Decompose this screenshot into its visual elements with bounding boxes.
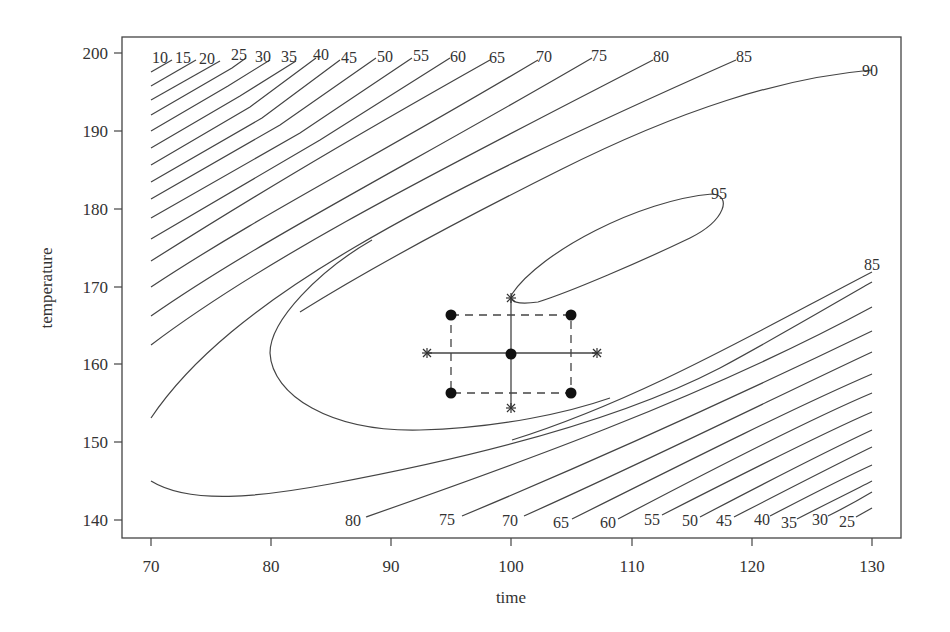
contour-label: 15 <box>175 49 191 66</box>
contour-75-lower <box>462 331 872 516</box>
axial-point-star <box>506 293 516 303</box>
x-tick-label: 70 <box>143 557 160 576</box>
contour-labels-bottom: 80 75 70 65 60 55 50 45 40 35 30 25 <box>345 511 855 531</box>
contour-55 <box>151 58 412 218</box>
contour-label: 70 <box>502 512 518 529</box>
contour-label: 50 <box>682 512 698 529</box>
x-tick-label: 110 <box>620 557 645 576</box>
contour-80 <box>151 60 653 345</box>
contour-label: 55 <box>413 47 429 64</box>
y-axis: 200 190 180 170 160 150 140 temperature <box>37 44 122 530</box>
y-tick-label: 150 <box>83 433 109 452</box>
y-tick-label: 190 <box>83 122 109 141</box>
y-tick-label: 200 <box>83 44 109 63</box>
central-composite-design <box>422 293 602 413</box>
contour-label: 45 <box>716 512 732 529</box>
contour-45-lower <box>734 447 872 517</box>
contour-40 <box>151 58 316 165</box>
contour-label: 65 <box>489 49 505 66</box>
contour-label: 30 <box>255 48 271 65</box>
factorial-point <box>446 388 457 399</box>
contour-label: 55 <box>644 511 660 528</box>
contour-label: 35 <box>281 48 297 65</box>
x-tick-label: 130 <box>859 557 885 576</box>
axial-point-star <box>422 348 432 358</box>
y-axis-title: temperature <box>37 247 56 328</box>
y-tick-label: 160 <box>83 355 109 374</box>
contour-lines-upper <box>151 58 736 418</box>
contour-label: 75 <box>591 47 607 64</box>
contour-label: 70 <box>536 48 552 65</box>
contour-label: 50 <box>377 48 393 65</box>
x-tick-label: 90 <box>383 557 400 576</box>
x-tick-label: 120 <box>739 557 765 576</box>
contour-label: 10 <box>152 49 168 66</box>
axial-point-star <box>592 348 602 358</box>
contour-label: 25 <box>839 513 855 530</box>
x-tick-label: 80 <box>263 557 280 576</box>
contour-label: 30 <box>812 511 828 528</box>
contour-label: 40 <box>313 46 329 63</box>
plot-frame <box>122 37 901 538</box>
contour-label: 60 <box>450 48 466 65</box>
contour-lines-lower <box>366 272 872 519</box>
axial-point-star <box>506 403 516 413</box>
contour-25-lower <box>856 508 872 517</box>
contour-label: 75 <box>439 511 455 528</box>
center-point <box>506 349 517 360</box>
contour-label: 20 <box>199 50 215 67</box>
contour-label: 80 <box>653 48 669 65</box>
y-tick-label: 180 <box>83 200 109 219</box>
contour-label: 35 <box>781 514 797 531</box>
x-axis: 70 80 90 100 110 120 130 time <box>143 538 885 607</box>
contour-label: 80 <box>345 512 361 529</box>
contour-95 <box>511 194 723 303</box>
contour-label-85-right: 85 <box>864 256 880 273</box>
contour-70-lower <box>524 352 872 516</box>
contour-plot: 200 190 180 170 160 150 140 temperature … <box>0 0 950 632</box>
factorial-point <box>446 310 457 321</box>
y-tick-label: 140 <box>83 511 109 530</box>
contour-label: 40 <box>754 511 770 528</box>
contour-90-inner <box>270 240 610 430</box>
contour-90-upper <box>300 70 872 312</box>
factorial-point <box>566 310 577 321</box>
contour-label: 85 <box>736 48 752 65</box>
factorial-point <box>566 388 577 399</box>
contour-label-95: 95 <box>711 185 727 202</box>
contour-label: 90 <box>862 62 878 79</box>
contour-65 <box>151 60 490 261</box>
y-tick-label: 170 <box>83 278 109 297</box>
contour-label: 45 <box>341 49 357 66</box>
contour-65-lower <box>572 374 872 519</box>
x-axis-title: time <box>496 588 526 607</box>
contour-30 <box>151 60 270 131</box>
contour-label: 25 <box>231 46 247 63</box>
contour-label: 60 <box>600 514 616 531</box>
x-tick-label: 100 <box>498 557 524 576</box>
contour-label: 65 <box>553 514 569 531</box>
contour-60 <box>151 58 450 239</box>
